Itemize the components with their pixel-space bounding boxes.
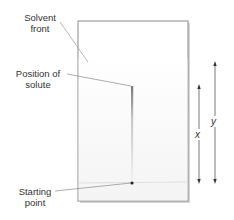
arrowhead-up-icon: [213, 61, 216, 66]
label-line: Starting: [14, 186, 56, 197]
label-line: front: [20, 23, 60, 34]
label-line: Solvent: [20, 12, 60, 23]
solute-position-label: Position of solute: [8, 68, 68, 90]
label-line: Position of: [8, 68, 68, 79]
solvent-front-label: Solvent front: [20, 12, 60, 34]
label-line: point: [14, 197, 56, 208]
arrowhead-down-icon: [213, 179, 216, 184]
solute-streak: [131, 86, 133, 182]
starting-point-label: Starting point: [14, 186, 56, 208]
arrowhead-up-icon: [197, 84, 200, 89]
y-distance-label: y: [210, 116, 217, 127]
arrowhead-down-icon: [197, 179, 200, 184]
label-line: solute: [8, 79, 68, 90]
x-distance-label: x: [194, 129, 201, 140]
